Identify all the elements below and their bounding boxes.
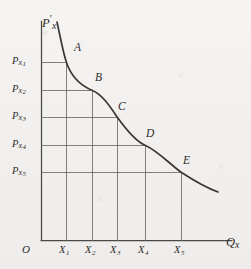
y-axis-title-sub: x bbox=[52, 20, 56, 31]
quantity-tick-label-3: X3 bbox=[110, 245, 120, 257]
price-tick-index-4: 4 bbox=[22, 143, 26, 150]
curve-point-label-b: B bbox=[95, 72, 102, 84]
quantity-tick-index-5: 5 bbox=[180, 249, 184, 256]
price-tick-index-2: 2 bbox=[22, 88, 26, 95]
quantity-tick-index-4: 4 bbox=[144, 249, 148, 256]
price-tick-label-1: Px1 bbox=[12, 56, 26, 68]
price-tick-label-2: Px2 bbox=[12, 84, 26, 96]
price-tick-label-3: Px3 bbox=[12, 111, 26, 123]
y-axis-title: P′x bbox=[42, 14, 56, 30]
y-axis-title-base: P bbox=[42, 16, 50, 30]
demand-curve-figure: P′x Qx O Px1 Px2 Px3 Px4 Px5 X1 X2 X3 X4… bbox=[0, 0, 251, 269]
chart-canvas bbox=[0, 0, 251, 269]
quantity-tick-index-2: 2 bbox=[91, 249, 95, 256]
quantity-tick-label-4: X4 bbox=[138, 245, 148, 257]
x-axis-title: Qx bbox=[226, 236, 239, 250]
origin-label: O bbox=[22, 244, 30, 255]
curve-point-label-a: A bbox=[74, 42, 81, 54]
curve-point-label-c: C bbox=[118, 101, 126, 113]
demand-curve-path bbox=[57, 22, 218, 192]
quantity-tick-index-1: 1 bbox=[65, 249, 69, 256]
curve-point-label-e: E bbox=[183, 155, 190, 167]
price-tick-index-1: 1 bbox=[22, 60, 26, 67]
price-tick-label-5: Px5 bbox=[12, 166, 26, 178]
price-tick-index-3: 3 bbox=[22, 115, 26, 122]
price-tick-index-5: 5 bbox=[22, 170, 26, 177]
price-tick-label-4: Px4 bbox=[12, 139, 26, 151]
quantity-tick-index-3: 3 bbox=[116, 249, 120, 256]
quantity-tick-label-1: X1 bbox=[59, 245, 69, 257]
curve-point-label-d: D bbox=[146, 128, 154, 140]
x-axis-title-base: Q bbox=[226, 235, 235, 249]
quantity-tick-label-2: X2 bbox=[85, 245, 95, 257]
quantity-tick-label-5: X5 bbox=[174, 245, 184, 257]
x-axis-title-sub: x bbox=[235, 239, 239, 250]
